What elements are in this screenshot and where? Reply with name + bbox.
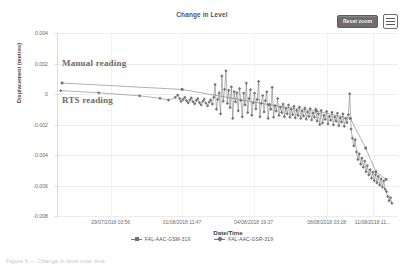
data-point[interactable] [307,115,310,118]
data-point[interactable] [213,83,216,86]
data-point[interactable] [266,117,269,120]
data-point[interactable] [272,116,275,119]
data-point[interactable] [347,113,350,116]
data-point[interactable] [291,113,294,116]
data-point[interactable] [234,100,237,103]
data-point[interactable] [334,120,337,123]
data-point[interactable] [239,99,242,102]
data-point[interactable] [257,80,260,83]
data-point[interactable] [241,115,244,118]
data-point[interactable] [227,89,230,92]
data-point[interactable] [292,105,295,108]
data-point[interactable] [254,107,257,110]
data-point[interactable] [317,112,320,115]
data-point[interactable] [322,114,325,117]
data-point[interactable] [325,110,328,113]
data-point[interactable] [167,98,170,101]
data-point[interactable] [354,138,357,141]
data-point[interactable] [237,109,240,112]
data-point[interactable] [366,164,369,167]
data-point[interactable] [377,175,380,178]
data-point[interactable] [231,117,234,120]
data-point[interactable] [321,121,324,124]
data-point[interactable] [348,92,351,95]
data-point[interactable] [245,81,248,84]
legend-item-FAL-AAC-GSR-319[interactable]: FAL-AAC-GSR-319 [214,236,273,242]
data-point[interactable] [277,114,280,117]
data-point[interactable] [262,110,265,113]
data-point[interactable] [250,114,253,117]
data-point[interactable] [235,91,238,94]
data-point[interactable] [305,117,308,120]
data-point[interactable] [281,102,284,105]
data-point[interactable] [345,121,348,124]
data-point[interactable] [211,102,214,105]
data-point[interactable] [271,86,274,89]
data-point[interactable] [370,177,373,180]
legend-item-FAL-AAC-GSM-319[interactable]: FAL-AAC-GSM-319 [131,236,190,242]
data-point[interactable] [219,112,222,115]
data-point[interactable] [340,120,343,123]
data-point[interactable] [330,111,333,114]
data-point[interactable] [355,150,358,153]
data-point[interactable] [228,106,231,109]
data-point[interactable] [206,104,209,107]
data-point[interactable] [329,119,332,122]
data-point[interactable] [283,115,286,118]
data-point[interactable] [385,178,388,181]
data-point[interactable] [360,156,363,159]
data-point[interactable] [238,87,241,90]
data-point[interactable] [359,163,362,166]
data-point[interactable] [388,199,391,202]
data-point[interactable] [258,115,261,118]
data-point[interactable] [204,102,207,105]
data-point[interactable] [200,103,203,106]
data-point[interactable] [386,195,389,198]
data-point[interactable] [318,123,321,126]
data-point[interactable] [260,102,263,105]
data-point[interactable] [349,127,352,130]
data-point[interactable] [364,170,367,173]
series-FAL-AAC-GSR-319[interactable] [59,69,393,205]
data-point[interactable] [264,99,267,102]
data-point[interactable] [232,90,235,93]
data-point[interactable] [265,90,268,93]
data-point[interactable] [280,111,283,114]
data-point[interactable] [275,109,278,112]
data-point[interactable] [389,196,392,199]
data-point[interactable] [364,147,367,150]
data-point[interactable] [328,115,331,118]
data-point[interactable] [299,117,302,120]
data-point[interactable] [97,91,100,94]
data-point[interactable] [300,109,303,112]
data-point[interactable] [390,202,393,205]
reset-zoom-button[interactable]: Reset zoom [337,15,378,27]
data-point[interactable] [256,98,259,101]
data-point[interactable] [138,94,141,97]
data-point[interactable] [313,116,316,119]
data-point[interactable] [295,109,298,112]
data-point[interactable] [224,69,227,72]
data-point[interactable] [253,91,256,94]
data-point[interactable] [215,108,218,111]
data-point[interactable] [362,166,365,169]
data-point[interactable] [371,170,374,173]
data-point[interactable] [222,100,225,103]
data-point[interactable] [298,105,301,108]
data-point[interactable] [324,118,327,121]
data-point[interactable] [337,124,340,127]
data-point[interactable] [379,177,382,180]
data-point[interactable] [287,103,290,106]
data-point[interactable] [374,173,377,176]
data-point[interactable] [341,112,344,115]
data-point[interactable] [356,158,359,161]
data-point[interactable] [226,102,229,105]
data-point[interactable] [306,110,309,113]
data-point[interactable] [61,82,64,85]
data-point[interactable] [181,88,184,91]
data-point[interactable] [198,101,201,104]
data-point[interactable] [276,97,279,100]
data-point[interactable] [178,97,181,100]
data-point[interactable] [243,103,246,106]
data-point[interactable] [247,97,250,100]
